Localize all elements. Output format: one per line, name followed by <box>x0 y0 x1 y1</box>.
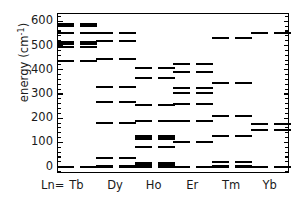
energy-level-line <box>119 157 136 159</box>
y-tick-major-right <box>284 93 289 94</box>
energy-level-line <box>173 87 190 89</box>
y-tick-minor <box>58 132 61 133</box>
energy-level-line <box>158 146 175 148</box>
y-tick-major-right <box>284 21 289 22</box>
energy-level-line <box>235 161 252 163</box>
y-tick-minor-right <box>285 16 288 17</box>
y-tick-minor-right <box>285 60 288 61</box>
y-tick-minor <box>58 127 61 128</box>
x-tick-label-ho: Ho <box>146 178 162 192</box>
energy-level-line <box>135 138 152 140</box>
energy-level-line <box>135 166 152 168</box>
energy-level-line <box>135 164 152 166</box>
energy-level-line <box>274 32 291 34</box>
energy-level-line <box>119 101 136 103</box>
x-tick-label-tb: Tb <box>69 178 83 192</box>
y-tick-minor-right <box>285 113 288 114</box>
y-tick-minor-right <box>285 79 288 80</box>
energy-level-line <box>196 63 213 65</box>
y-tick-minor <box>58 147 61 148</box>
energy-level-line <box>235 115 252 117</box>
energy-level-line <box>196 103 213 105</box>
energy-level-line <box>135 146 152 148</box>
y-axis-title-exponent: -1 <box>17 27 26 35</box>
energy-level-line <box>173 166 190 168</box>
y-tick-major <box>58 118 63 119</box>
energy-level-line <box>96 165 113 167</box>
energy-level-line <box>196 141 213 143</box>
y-tick-major-right <box>284 69 289 70</box>
energy-level-line <box>80 43 97 45</box>
y-tick-minor-right <box>285 26 288 27</box>
y-tick-minor <box>58 161 61 162</box>
plot-area <box>57 13 289 173</box>
y-tick-minor-right <box>285 171 288 172</box>
y-tick-minor-right <box>285 74 288 75</box>
y-tick-minor <box>58 156 61 157</box>
energy-level-line <box>158 120 175 122</box>
energy-level-line <box>96 40 113 42</box>
energy-level-line <box>158 77 175 79</box>
energy-level-line <box>96 122 113 124</box>
energy-level-line <box>235 82 252 84</box>
energy-level-line <box>274 123 291 125</box>
y-tick-minor-right <box>285 103 288 104</box>
x-tick-label-yb: Yb <box>262 178 276 192</box>
energy-level-line <box>135 67 152 69</box>
energy-level-line <box>119 40 136 42</box>
y-tick-minor <box>58 152 61 153</box>
y-tick-minor-right <box>285 156 288 157</box>
energy-level-line <box>119 58 136 60</box>
energy-level-line <box>212 37 229 39</box>
y-tick-major <box>58 21 63 22</box>
energy-level-line <box>80 60 97 62</box>
energy-level-line <box>196 71 213 73</box>
y-tick-minor <box>58 113 61 114</box>
energy-level-line <box>212 161 229 163</box>
energy-level-line <box>80 166 97 168</box>
y-tick-minor <box>58 103 61 104</box>
y-tick-major-right <box>284 142 289 143</box>
energy-level-line <box>57 25 74 27</box>
energy-level-line <box>119 122 136 124</box>
energy-level-line <box>196 120 213 122</box>
energy-level-line <box>96 86 113 88</box>
energy-level-line <box>96 32 113 34</box>
y-tick-minor <box>58 98 61 99</box>
y-tick-minor <box>58 171 61 172</box>
y-tick-minor-right <box>285 55 288 56</box>
energy-level-line <box>80 23 97 25</box>
y-tick-minor-right <box>285 161 288 162</box>
y-tick-minor-right <box>285 50 288 51</box>
energy-level-figure: energy (cm-1) Ln= 0100200300400500600TbD… <box>0 0 304 203</box>
energy-level-line <box>212 165 229 167</box>
energy-level-line <box>57 41 74 43</box>
energy-level-line <box>135 162 152 164</box>
y-tick-minor <box>58 30 61 31</box>
energy-level-line <box>57 46 74 48</box>
energy-level-line <box>235 135 252 137</box>
y-tick-minor <box>58 50 61 51</box>
energy-level-line <box>96 58 113 60</box>
y-tick-label: 500 <box>13 38 53 52</box>
y-tick-minor <box>58 108 61 109</box>
energy-level-line <box>57 23 74 25</box>
y-tick-minor-right <box>285 98 288 99</box>
y-tick-major <box>58 69 63 70</box>
energy-level-line <box>135 120 152 122</box>
energy-level-line <box>274 129 291 131</box>
energy-level-line <box>173 120 190 122</box>
y-tick-major <box>58 93 63 94</box>
energy-level-line <box>135 77 152 79</box>
y-tick-label: 100 <box>13 134 53 148</box>
energy-level-line <box>119 165 136 167</box>
x-tick-label-dy: Dy <box>107 178 123 192</box>
energy-level-line <box>57 166 74 168</box>
energy-level-line <box>196 92 213 94</box>
x-tick-label-er: Er <box>186 178 198 192</box>
energy-level-line <box>158 138 175 140</box>
y-tick-minor-right <box>285 152 288 153</box>
y-tick-major-right <box>284 45 289 46</box>
y-tick-minor-right <box>285 137 288 138</box>
x-tick-label-tm: Tm <box>222 178 240 192</box>
